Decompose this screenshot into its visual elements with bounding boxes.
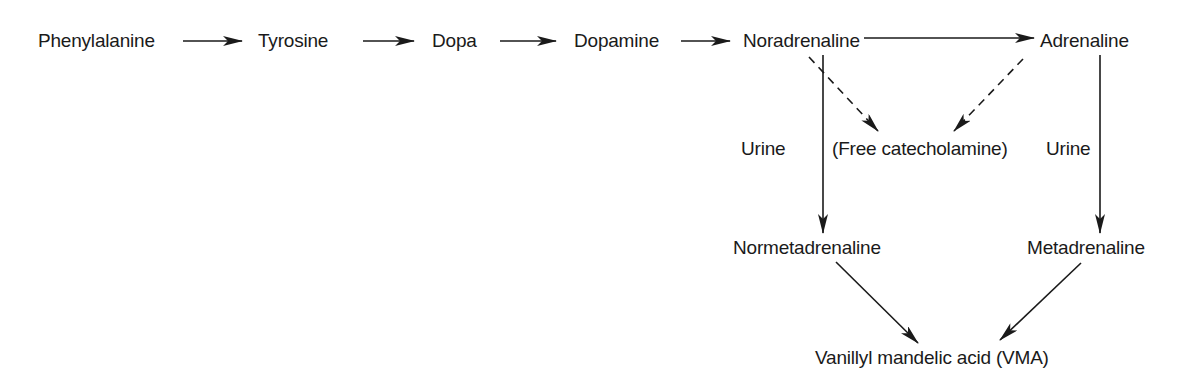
pathway-edges: [0, 0, 1194, 380]
node-metadrenaline: Metadrenaline: [1027, 237, 1145, 259]
arrow-normetadrenaline-vma: [836, 262, 918, 343]
node-vma: Vanillyl mandelic acid (VMA): [815, 347, 1049, 369]
node-noradrenaline: Noradrenaline: [743, 30, 860, 52]
edge-label-urine-left: Urine: [741, 138, 785, 160]
node-phenylalanine: Phenylalanine: [38, 30, 155, 52]
node-free-catecholamine: (Free catecholamine): [832, 138, 1008, 160]
node-dopa: Dopa: [432, 30, 477, 52]
dashed-arrow-noradrenaline-free: [809, 57, 878, 131]
edge-label-urine-right: Urine: [1046, 138, 1090, 160]
node-normetadrenaline: Normetadrenaline: [733, 237, 881, 259]
node-dopamine: Dopamine: [574, 30, 659, 52]
dashed-arrow-adrenaline-free: [954, 59, 1023, 131]
arrow-metadrenaline-vma: [1000, 263, 1081, 340]
node-tyrosine: Tyrosine: [258, 30, 328, 52]
node-adrenaline: Adrenaline: [1040, 30, 1129, 52]
